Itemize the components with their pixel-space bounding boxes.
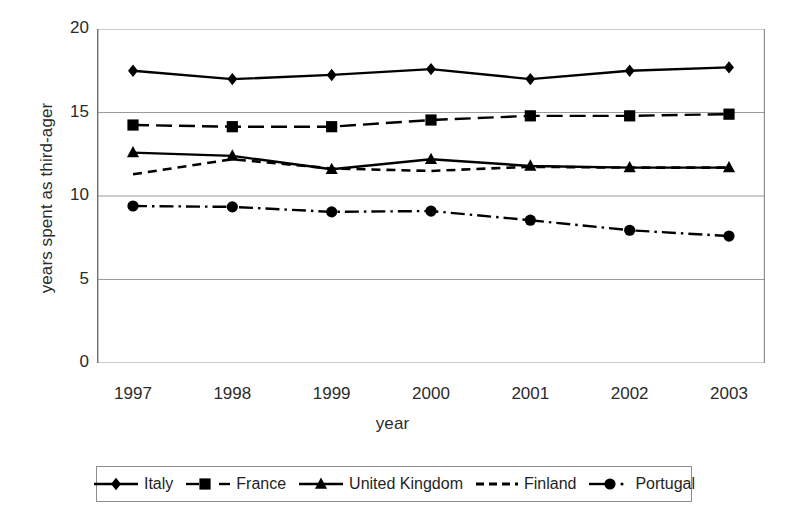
data-point	[723, 230, 734, 241]
data-point	[625, 65, 635, 77]
data-point	[426, 63, 436, 75]
x-axis-tick-labels: 1997199819992000200120022003	[97, 378, 765, 404]
legend-item-italy[interactable]: Italy	[87, 475, 179, 493]
data-point	[425, 205, 436, 216]
data-point	[624, 110, 635, 121]
data-point	[127, 119, 138, 130]
data-point	[723, 109, 734, 120]
line-chart: years spent as third-ager year 20151050 …	[0, 0, 785, 514]
data-point	[227, 121, 238, 132]
data-point	[127, 200, 138, 211]
y-axis-tick-label: 15	[49, 102, 89, 122]
legend-item-portugal[interactable]: Portugal	[582, 475, 701, 493]
legend-label: France	[236, 476, 286, 492]
x-axis-tick-label: 2003	[689, 384, 769, 404]
legend-label: Portugal	[635, 476, 695, 492]
legend-marker-triangle-solid-icon	[298, 475, 344, 493]
x-axis-tick-label: 2000	[391, 384, 471, 404]
series-portugal	[127, 200, 734, 241]
gridlines	[97, 29, 765, 363]
x-axis-tick-label: 1998	[192, 384, 272, 404]
y-axis-tick-label: 20	[49, 18, 89, 38]
legend-marker-line-dashed-icon	[475, 475, 519, 493]
legend-label: United Kingdom	[349, 476, 463, 492]
x-axis-tick-label: 1997	[93, 384, 173, 404]
legend-label: Italy	[144, 476, 173, 492]
x-axis-title: year	[0, 414, 785, 434]
chart-legend: ItalyFranceUnited KingdomFinlandPortugal	[96, 466, 692, 502]
data-point	[326, 121, 337, 132]
data-point	[425, 114, 436, 125]
data-point	[326, 206, 337, 217]
data-point	[525, 215, 536, 226]
x-axis-tick-label: 1999	[292, 384, 372, 404]
legend-marker-square-dashed-icon	[185, 475, 231, 493]
data-point	[724, 61, 734, 73]
x-axis-tick-label: 2002	[590, 384, 670, 404]
x-axis-tick-label: 2001	[490, 384, 570, 404]
data-point	[227, 73, 237, 85]
data-point	[525, 73, 535, 85]
legend-marker-circle-dashdot-icon	[588, 475, 630, 493]
legend-marker-diamond-solid-icon	[93, 475, 139, 493]
data-point	[227, 201, 238, 212]
data-point	[624, 225, 635, 236]
legend-item-united-kingdom[interactable]: United Kingdom	[292, 475, 469, 493]
data-point	[525, 110, 536, 121]
series-united-kingdom	[127, 146, 735, 174]
legend-item-france[interactable]: France	[179, 475, 292, 493]
plot-svg	[97, 29, 765, 363]
legend-item-finland[interactable]: Finland	[469, 475, 582, 493]
data-point	[425, 153, 437, 164]
series-italy	[128, 61, 734, 85]
y-axis-tick-label: 5	[49, 269, 89, 289]
data-point	[128, 65, 138, 77]
plot-area	[97, 29, 765, 363]
y-axis-tick-labels: 20151050	[47, 29, 89, 363]
y-axis-tick-label: 10	[49, 185, 89, 205]
legend-label: Finland	[524, 476, 576, 492]
data-point	[327, 69, 337, 81]
y-axis-tick-label: 0	[49, 352, 89, 372]
